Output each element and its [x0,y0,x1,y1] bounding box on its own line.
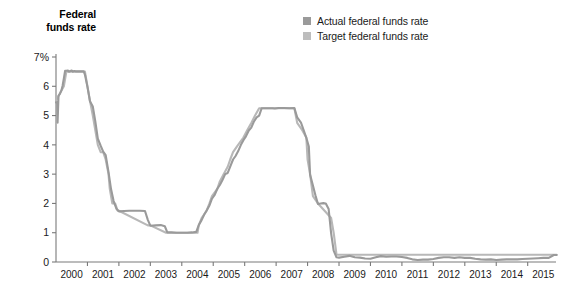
y-axis-tick-label: 7% [34,51,49,63]
x-axis-tick-label: 2010 [375,269,398,280]
x-axis-tick-label: 2003 [155,269,178,280]
x-axis-tick-label: 2009 [343,269,366,280]
y-axis-tick-label: 2 [43,197,49,209]
x-axis-tick-label: 2000 [60,269,83,280]
y-axis-tick-label: 0 [43,256,49,268]
x-axis-tick-label: 2004 [186,269,209,280]
x-axis-tick-label: 2013 [469,269,492,280]
x-axis-tick-label: 2001 [92,269,115,280]
x-axis-tick-label: 2008 [312,269,335,280]
data-line-actual [56,70,557,259]
y-axis-tick-label: 3 [43,168,49,180]
y-axis-tick-label: 6 [43,80,49,92]
y-axis: 01234567% [34,51,56,268]
data-series-group [56,70,557,259]
x-axis-tick-label: 2002 [123,269,146,280]
federal-funds-rate-chart: Federal funds rate Actual federal funds … [0,0,572,286]
x-axis-tick-label: 2012 [438,269,461,280]
y-axis-tick-label: 1 [43,226,49,238]
y-axis-tick-label: 4 [43,139,49,151]
x-axis-tick-label: 2011 [407,269,429,280]
x-axis: 2000200120022003200420052006200720082009… [56,262,556,280]
x-axis-tick-label: 2005 [218,269,241,280]
x-axis-tick-label: 2006 [249,269,272,280]
x-axis-tick-label: 2014 [501,269,524,280]
y-axis-tick-label: 5 [43,109,49,121]
x-axis-tick-label: 2015 [532,269,555,280]
data-line-target [56,72,557,255]
plot-area: 01234567% 200020012002200320042005200620… [0,0,572,286]
x-axis-tick-label: 2007 [281,269,304,280]
